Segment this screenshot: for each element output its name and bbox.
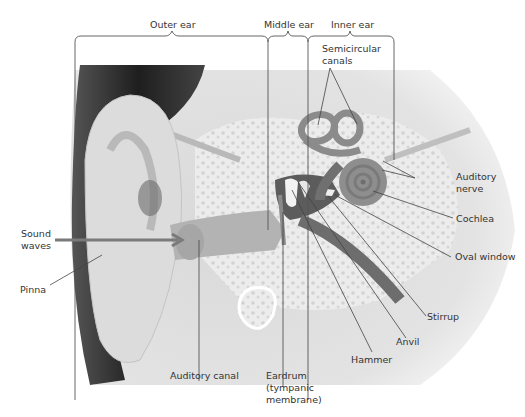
label-cochlea: Cochlea — [456, 213, 494, 225]
label-pinna: Pinna — [20, 284, 46, 296]
label-hammer: Hammer — [351, 354, 392, 366]
label-semicircular-canals-line1: Semicircular — [322, 43, 381, 55]
ear-anatomy-diagram: Outer ear Middle ear Inner ear Semicircu… — [0, 0, 525, 417]
label-outer-ear: Outer ear — [150, 19, 196, 31]
cochlea-shape — [339, 158, 387, 206]
label-eardrum-line1: Eardrum — [266, 370, 307, 382]
label-inner-ear: Inner ear — [331, 19, 374, 31]
ear-illustration — [0, 0, 525, 417]
label-middle-ear: Middle ear — [264, 19, 314, 31]
label-eardrum-line2: (tympanic — [266, 382, 314, 394]
label-sound-waves-line1: Sound — [21, 228, 51, 240]
bone-cross-section — [239, 288, 275, 329]
label-auditory-canal: Auditory canal — [170, 370, 239, 382]
label-auditory-nerve-line1: Auditory — [456, 171, 496, 183]
label-eardrum-line3: membrane) — [266, 394, 322, 406]
label-sound-waves-line2: waves — [21, 240, 51, 252]
label-stirrup: Stirrup — [427, 311, 459, 323]
label-auditory-nerve-line2: nerve — [456, 183, 483, 195]
label-semicircular-canals-line2: canals — [322, 55, 352, 67]
hammer-bone — [285, 178, 298, 207]
label-anvil: Anvil — [396, 336, 419, 348]
label-oval-window: Oval window — [455, 251, 516, 263]
